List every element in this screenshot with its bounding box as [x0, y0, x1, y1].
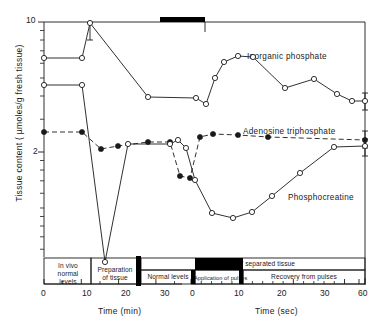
- phase-box-row2: [243, 270, 365, 284]
- data-point-filled: [115, 143, 120, 148]
- data-point-open: [145, 94, 150, 99]
- axes-layer: [38, 22, 365, 285]
- application-pulses-black-band: [195, 258, 243, 270]
- phase-box-row2: [195, 270, 243, 284]
- data-point-open: [349, 98, 354, 103]
- phase-divider-thick: [136, 256, 141, 286]
- data-point-open: [192, 177, 197, 182]
- data-point-open: [230, 215, 235, 220]
- data-point-open: [41, 55, 46, 60]
- data-point-open: [362, 98, 367, 103]
- chart-figure: Tissue content ( µmoles/g fresh tissue) …: [0, 0, 392, 325]
- pulse-period-bar: [160, 17, 205, 22]
- data-point-open: [250, 54, 255, 59]
- data-point-filled: [210, 131, 215, 136]
- data-point-open: [87, 20, 92, 25]
- data-point-open: [79, 55, 84, 60]
- data-series-layer: [41, 20, 368, 264]
- series-line-phosphocreatine: [44, 85, 365, 262]
- phase-bars-layer: [44, 17, 365, 286]
- data-point-filled: [177, 173, 182, 178]
- phase-divider-pulses-start: [191, 270, 195, 284]
- data-point-open: [282, 85, 287, 90]
- data-point-open: [175, 137, 180, 142]
- data-point-open: [125, 141, 130, 146]
- data-point-open: [193, 95, 198, 100]
- data-point-open: [167, 141, 172, 146]
- series-line-inorganic-phosphate: [44, 23, 365, 104]
- phase-box-row1: [44, 258, 91, 284]
- data-point-open: [249, 209, 254, 214]
- data-point-open: [212, 75, 217, 80]
- data-point-filled: [265, 134, 270, 139]
- data-point-filled: [235, 132, 240, 137]
- data-point-open: [331, 144, 336, 149]
- data-point-filled: [79, 129, 84, 134]
- data-point-filled: [41, 129, 46, 134]
- data-point-open: [269, 193, 274, 198]
- data-point-open: [41, 82, 46, 87]
- data-point-filled: [197, 134, 202, 139]
- phase-box-row1: [141, 258, 365, 270]
- plot-canvas: [0, 0, 392, 325]
- phase-divider-pulses-end: [239, 270, 243, 284]
- data-point-filled: [187, 175, 192, 180]
- data-point-open: [102, 259, 107, 264]
- data-point-open: [362, 143, 367, 148]
- data-point-filled: [98, 146, 103, 151]
- phase-box-row1: [91, 258, 137, 284]
- data-point-open: [209, 210, 214, 215]
- data-point-open: [311, 76, 316, 81]
- data-point-open: [79, 82, 84, 87]
- data-point-open: [334, 91, 339, 96]
- data-point-open: [221, 59, 226, 64]
- series-line-adenosine-triphosphate: [44, 132, 365, 178]
- data-point-open: [297, 170, 302, 175]
- phase-box-row2: [141, 270, 195, 284]
- data-point-open: [183, 145, 188, 150]
- data-point-open: [203, 101, 208, 106]
- data-point-open: [235, 53, 240, 58]
